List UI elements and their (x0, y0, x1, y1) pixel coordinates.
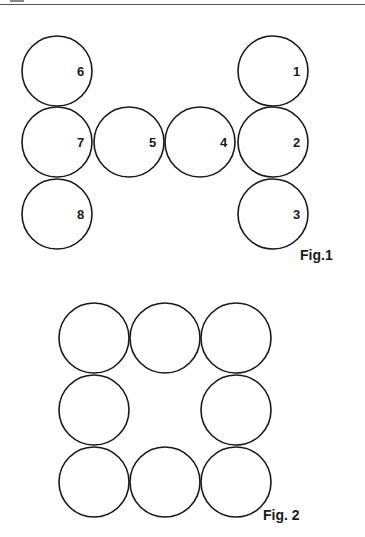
figure-1: 12345678 (22, 36, 308, 249)
circle-number-label: 6 (77, 64, 84, 79)
circle-number-label: 3 (293, 207, 300, 222)
circle (59, 447, 129, 517)
circle (201, 447, 271, 517)
circle (59, 303, 129, 373)
circle (201, 303, 271, 373)
circle-number-label: 2 (293, 135, 300, 150)
figure-1-caption: Fig.1 (300, 247, 333, 263)
figure-2 (59, 303, 271, 517)
circle (59, 375, 129, 445)
figure-2-caption: Fig. 2 (263, 507, 300, 523)
circle (201, 375, 271, 445)
circle-number-label: 1 (293, 64, 300, 79)
circle (130, 303, 200, 373)
circle-number-label: 5 (149, 135, 156, 150)
circle-puzzle-diagram: 12345678 Fig.1 Fig. 2 (0, 0, 365, 537)
circle-number-label: 7 (77, 135, 84, 150)
circle-number-label: 8 (77, 207, 84, 222)
circle-number-label: 4 (220, 135, 228, 150)
circle (130, 447, 200, 517)
